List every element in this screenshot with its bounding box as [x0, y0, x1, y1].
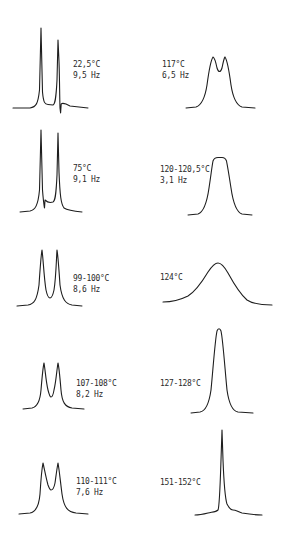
spectrum-124C: [163, 263, 272, 305]
splitting-label: 6,5 Hz: [162, 70, 189, 81]
spectrum-117C: [186, 57, 255, 108]
spectrum-151-152C: [195, 430, 262, 515]
panel-2-label: 75°C 9,1 Hz: [73, 163, 100, 185]
splitting-label: 7,6 Hz: [76, 487, 117, 498]
temperature-label: 127-128°C: [160, 378, 201, 389]
splitting-label: 8,6 Hz: [73, 284, 109, 295]
temperature-label: 151-152°C: [160, 477, 201, 488]
temperature-label: 22,5°C: [73, 59, 100, 70]
temperature-label: 99-100°C: [73, 273, 109, 284]
splitting-label: 8,2 Hz: [76, 389, 117, 400]
panel-5-label: 110-111°C 7,6 Hz: [76, 476, 117, 498]
panel-6-label: 117°C 6,5 Hz: [162, 59, 189, 81]
panel-10-label: 151-152°C: [160, 477, 201, 488]
temperature-label: 117°C: [162, 59, 189, 70]
splitting-label: 9,1 Hz: [73, 174, 100, 185]
panel-9-label: 127-128°C: [160, 378, 201, 389]
spectra-figure: [0, 0, 284, 549]
panel-3-label: 99-100°C 8,6 Hz: [73, 273, 109, 295]
panel-1-label: 22,5°C 9,5 Hz: [73, 59, 100, 81]
temperature-label: 110-111°C: [76, 476, 117, 487]
spectrum-127-128C: [191, 329, 253, 413]
splitting-label: 9,5 Hz: [73, 70, 100, 81]
temperature-label: 75°C: [73, 163, 100, 174]
temperature-label: 120-120,5°C: [160, 164, 210, 175]
panel-7-label: 120-120,5°C 3,1 Hz: [160, 164, 210, 186]
temperature-label: 107-108°C: [76, 378, 117, 389]
splitting-label: 3,1 Hz: [160, 175, 210, 186]
panel-8-label: 124°C: [160, 272, 183, 283]
panel-4-label: 107-108°C 8,2 Hz: [76, 378, 117, 400]
temperature-label: 124°C: [160, 272, 183, 283]
spectrum-107-108C: [23, 363, 84, 409]
